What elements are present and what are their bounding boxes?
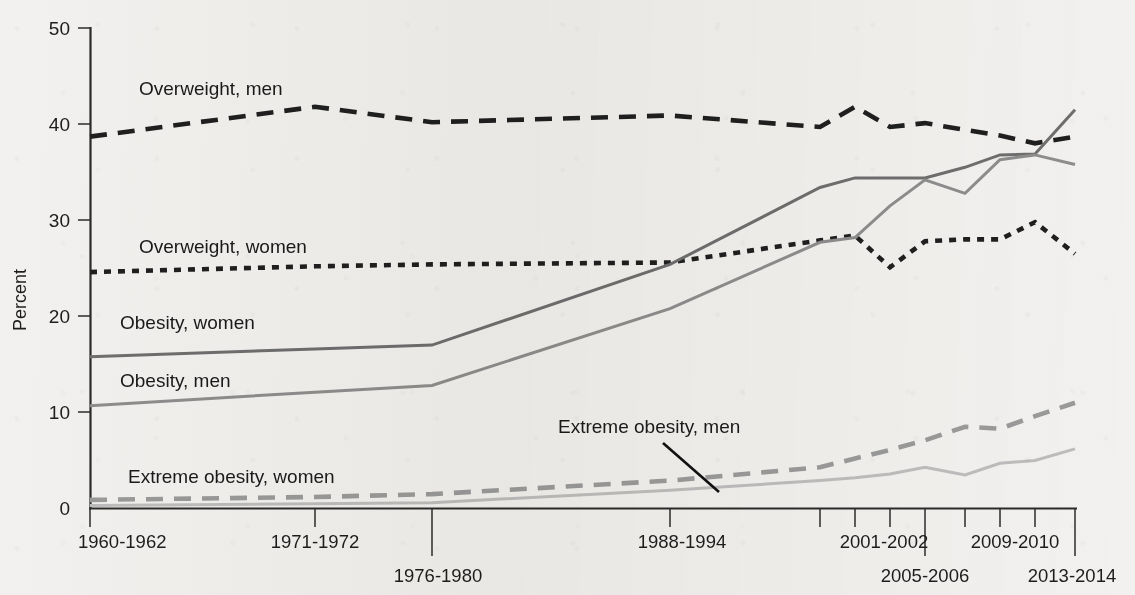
x-tick-1976-1980: 1976-1980: [394, 565, 482, 586]
series-group: [90, 107, 1075, 506]
extreme-obesity-men-leader-line: [663, 443, 719, 492]
x-tick-2009-2010: 2009-2010: [971, 531, 1059, 552]
x-tick-1988-1994: 1988-1994: [638, 531, 726, 552]
label-overweight-men: Overweight, men: [139, 78, 283, 99]
obesity-trend-chart: 50 40 30 20 10 0 Percent 1960-1962: [0, 0, 1135, 595]
y-tick-10: 10: [49, 402, 70, 423]
y-tick-30: 30: [49, 210, 70, 231]
label-extreme-obesity-women: Extreme obesity, women: [128, 466, 335, 487]
x-tick-2013-2014: 2013-2014: [1028, 565, 1116, 586]
label-obesity-men: Obesity, men: [120, 370, 231, 391]
y-tick-20: 20: [49, 306, 70, 327]
x-tick-labels-row2: 1976-1980 2005-2006 2013-2014: [394, 565, 1116, 586]
label-obesity-women: Obesity, women: [120, 312, 255, 333]
y-tick-labels: 50 40 30 20 10 0: [49, 18, 70, 519]
chart-svg: 50 40 30 20 10 0 Percent 1960-1962: [0, 0, 1135, 595]
y-tick-0: 0: [59, 498, 70, 519]
series-line-obesity-men: [90, 155, 1075, 406]
series-labels-group: Overweight, men Overweight, women Obesit…: [120, 78, 740, 492]
x-tick-2005-2006: 2005-2006: [881, 565, 969, 586]
y-tick-50: 50: [49, 18, 70, 39]
x-tick-labels-row1: 1960-1962 1971-1972 1988-1994 2001-2002 …: [78, 531, 1059, 552]
x-tick-1971-1972: 1971-1972: [271, 531, 359, 552]
x-tick-1960-1962: 1960-1962: [78, 531, 166, 552]
y-axis-title: Percent: [10, 269, 30, 331]
y-tick-marks: [78, 28, 90, 412]
x-tick-2001-2002: 2001-2002: [840, 531, 928, 552]
label-overweight-women: Overweight, women: [139, 236, 307, 257]
label-extreme-obesity-men: Extreme obesity, men: [558, 416, 740, 437]
y-tick-40: 40: [49, 114, 70, 135]
series-line-overweight-men: [90, 107, 1075, 144]
